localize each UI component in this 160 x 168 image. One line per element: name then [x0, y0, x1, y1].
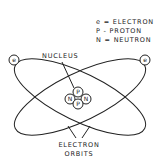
- svg-text:N: N: [68, 95, 73, 102]
- svg-text:e: e: [12, 56, 16, 63]
- svg-text:e = ELECTRON: e = ELECTRON: [96, 18, 154, 26]
- nucleus-label: NUCLEUS: [42, 52, 78, 60]
- svg-text:P: P: [76, 100, 80, 107]
- svg-text:N: N: [84, 95, 89, 102]
- orbit-arrow-left: [68, 126, 76, 138]
- svg-text:P - PROTON: P - PROTON: [96, 27, 142, 35]
- electron-right: e: [140, 55, 150, 65]
- svg-text:e: e: [143, 56, 147, 63]
- svg-text:N = NEUTRON: N = NEUTRON: [96, 36, 151, 44]
- orbits-label-line1: ELECTRON: [58, 141, 99, 149]
- orbit-arrow-right: [82, 126, 90, 138]
- legend: e = ELECTRON P - PROTON N = NEUTRON: [96, 18, 154, 44]
- orbits-label-line2: ORBITS: [65, 150, 94, 158]
- nucleus: P N N P: [65, 87, 91, 109]
- atom-diagram: e e P N N P NUCLEUS ELECTRON ORBITS e = …: [0, 0, 160, 168]
- electron-left: e: [9, 55, 19, 65]
- svg-text:P: P: [76, 88, 80, 95]
